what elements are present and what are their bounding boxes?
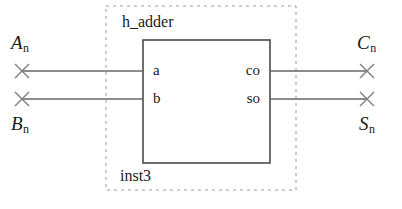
signal-sub-b: n (23, 122, 29, 136)
signal-label-a-input: An (11, 33, 29, 52)
signal-sub-a: n (23, 41, 29, 55)
signal-base-b: B (11, 113, 23, 134)
port-label-so: so (218, 91, 260, 106)
signal-label-c-output: Cn (357, 33, 376, 52)
schematic-graphics (0, 0, 402, 209)
signal-base-a: A (11, 32, 23, 53)
signal-base-c: C (357, 32, 370, 53)
port-label-a: a (153, 63, 160, 78)
port-label-b: b (153, 91, 161, 106)
component-block-label: h_adder (122, 14, 174, 30)
signal-base-s: S (359, 113, 369, 134)
signal-sub-c: n (370, 41, 376, 55)
component-instance-label: inst3 (120, 168, 151, 184)
signal-label-b-input: Bn (11, 114, 29, 133)
port-label-co: co (218, 63, 260, 78)
signal-sub-s: n (369, 122, 375, 136)
signal-label-s-output: Sn (359, 114, 375, 133)
schematic-diagram: h_adder inst3 a b co so An Bn Cn Sn (0, 0, 402, 209)
